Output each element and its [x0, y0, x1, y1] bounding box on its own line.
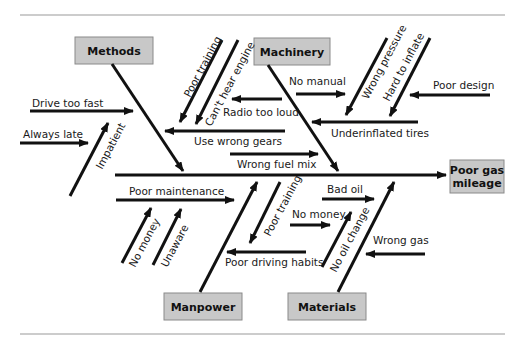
- cause-underinflated-tires: Underinflated tires: [331, 127, 429, 139]
- cause-poor-training-top: Poor training: [181, 34, 223, 99]
- cause-poor-maintenance: Poor maintenance: [129, 185, 224, 197]
- cause-no-manual: No manual: [289, 75, 346, 87]
- effect-box: Poor gas mileage: [450, 160, 505, 193]
- cause-wrong-fuel-mix: Wrong fuel mix: [237, 158, 317, 170]
- effect-label-line2: mileage: [452, 177, 501, 190]
- cause-always-late: Always late: [23, 128, 83, 140]
- cause-poor-design: Poor design: [433, 79, 494, 91]
- category-label-manpower: Manpower: [171, 301, 236, 314]
- effect-label-line1: Poor gas: [450, 164, 505, 177]
- fishbone-diagram: Poor gas mileage Methods Machinery Manpo…: [0, 0, 524, 346]
- category-label-machinery: Machinery: [260, 46, 324, 59]
- category-box-machinery: Machinery: [254, 38, 330, 65]
- cause-radio-too-loud: Radio too loud: [223, 106, 299, 118]
- category-label-methods: Methods: [87, 45, 141, 58]
- category-box-manpower: Manpower: [164, 293, 242, 320]
- category-box-materials: Materials: [288, 293, 366, 320]
- cause-bad-oil: Bad oil: [327, 183, 363, 195]
- cause-poor-driving-habits: Poor driving habits: [225, 256, 323, 268]
- cause-drive-too-fast: Drive too fast: [32, 97, 103, 109]
- bone-methods: [112, 64, 183, 171]
- cause-no-money-right: No money: [292, 208, 346, 220]
- cause-use-wrong-gears: Use wrong gears: [194, 135, 282, 147]
- category-box-methods: Methods: [75, 37, 153, 64]
- cause-wrong-gas: Wrong gas: [373, 234, 429, 246]
- cause-impatient: Impatient: [93, 121, 127, 171]
- category-label-materials: Materials: [298, 301, 356, 314]
